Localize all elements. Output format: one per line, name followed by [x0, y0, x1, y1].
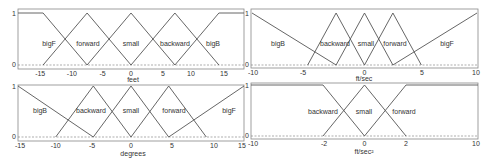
ytick-0: 0 [245, 132, 249, 139]
xtick: 5 [420, 69, 424, 76]
xtick: 10 [187, 70, 195, 77]
ytick-0: 0 [245, 61, 249, 68]
mf-backward [308, 13, 365, 65]
ytick-1: 1 [245, 82, 249, 89]
chart-panel-ft-sec: 1 0 bigB backward small forward bigF -10… [245, 9, 480, 82]
set-label: backward [76, 107, 106, 114]
set-label: backward [320, 40, 350, 47]
xtick: -5 [99, 70, 105, 77]
plot-frame [251, 9, 478, 68]
xtick: 15 [238, 142, 246, 149]
mf-bigB [252, 13, 336, 65]
xtick: -5 [89, 142, 95, 149]
x-axis-label: degrees [120, 150, 146, 158]
xtick: -5 [300, 69, 306, 76]
set-label: small [356, 108, 373, 115]
xtick: 10 [210, 142, 218, 149]
xtick: -2 [321, 140, 327, 147]
set-label: backward [308, 108, 338, 115]
ytick-0: 0 [12, 133, 16, 140]
xtick: -15 [15, 142, 25, 149]
mf-forward [365, 85, 479, 136]
xtick: 10 [472, 69, 480, 76]
ytick-1: 1 [12, 10, 16, 17]
set-label: bigB [206, 40, 220, 48]
x-axis-label: feet [127, 76, 139, 83]
xtick: 0 [363, 140, 367, 147]
membership-function-charts: 1 0 bigF forward small backward bigB -15… [0, 0, 492, 164]
ytick-1: 1 [245, 10, 249, 17]
set-label: forward [383, 40, 406, 47]
mf-small [336, 13, 393, 65]
xtick: -10 [248, 140, 258, 147]
set-label: bigF [42, 40, 56, 48]
chart-panel-degrees: 1 0 bigB backward small forward bigF -15… [12, 83, 246, 158]
mf-bigF [18, 13, 87, 65]
chart-panel-ft-sec2: 1 0 backward small forward -10 -2 0 2 10… [245, 82, 480, 155]
chart-panel-feet: 1 0 bigF forward small backward bigB -15… [12, 9, 244, 83]
mf-bigB [175, 13, 244, 65]
plot-frame [18, 9, 244, 69]
xtick: -10 [51, 142, 61, 149]
ytick-0: 0 [12, 61, 16, 68]
xtick: 15 [220, 70, 228, 77]
set-label: small [123, 107, 140, 114]
set-label: forward [392, 108, 415, 115]
xtick: 5 [161, 70, 165, 77]
xtick: -10 [67, 70, 77, 77]
set-label: forward [76, 40, 99, 47]
mf-backward [131, 13, 219, 65]
set-label: small [123, 40, 140, 47]
xtick: 10 [472, 140, 480, 147]
xtick: -10 [248, 69, 258, 76]
xtick: 0 [129, 142, 133, 149]
set-label: forward [162, 107, 185, 114]
set-label: small [358, 40, 375, 47]
mf-forward [365, 13, 422, 65]
x-axis-label: ft/sec² [354, 148, 374, 155]
set-label: bigF [222, 107, 236, 115]
set-label: backward [160, 40, 190, 47]
xtick: -15 [35, 70, 45, 77]
mf-forward [43, 13, 131, 65]
set-label: bigB [271, 40, 285, 48]
mf-bigF [393, 13, 477, 65]
mf-small [87, 13, 175, 65]
ytick-1: 1 [12, 83, 16, 90]
xtick: 2 [404, 140, 408, 147]
set-label: bigF [440, 40, 454, 48]
x-axis-label: ft/sec [356, 75, 373, 82]
set-label: bigB [33, 107, 47, 115]
xtick: 5 [170, 142, 174, 149]
